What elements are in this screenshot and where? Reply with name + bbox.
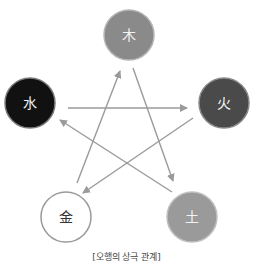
arrows-group: [60, 68, 193, 193]
node-metal: 金: [41, 192, 91, 242]
node-label-fire: 火: [217, 95, 231, 111]
arrow-fire-to-metal: [83, 118, 193, 193]
node-water: 水: [5, 78, 55, 128]
node-wood: 木: [104, 10, 154, 60]
node-earth: 土: [167, 192, 217, 242]
node-label-metal: 金: [59, 209, 73, 225]
diagram-caption: [오행의 상극 관계]: [0, 250, 253, 263]
node-label-earth: 土: [185, 209, 199, 225]
arrow-metal-to-wood: [77, 71, 120, 183]
node-fire: 火: [199, 78, 249, 128]
node-label-water: 水: [23, 95, 37, 111]
nodes-group: 木火土金水: [5, 10, 249, 242]
node-label-wood: 木: [122, 27, 136, 43]
arrow-wood-to-earth: [133, 68, 173, 181]
